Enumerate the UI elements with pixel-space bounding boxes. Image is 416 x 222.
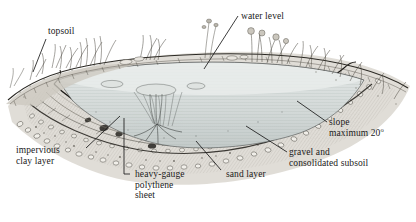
label-slope-maximum: slope maximum 20o [329,117,415,138]
label-clay-line1: impervious [16,145,104,156]
leader-topsoil [33,39,46,72]
label-polythene-line3: sheet [135,190,215,201]
label-impervious-clay-layer: impervious clay layer [16,145,104,166]
label-slope-line2: maximum 20o [329,128,415,139]
label-gravel-and-consolidated-subsoil: gravel and consolidated subsoil [289,147,413,168]
label-heavy-gauge-polythene-sheet: heavy-gauge polythene sheet [135,169,215,201]
label-slope-line1: slope [329,117,415,128]
label-sand-layer: sand layer [226,169,266,180]
label-clay-line2: clay layer [16,156,104,167]
label-sand-layer-text: sand layer [226,169,266,179]
label-topsoil: topsoil [48,26,75,37]
label-water-level-text: water level [241,11,284,21]
label-gravel-line1: gravel and [289,147,413,158]
diagram-canvas: topsoil water level slope maximum 20o gr… [0,0,416,222]
label-polythene-line1: heavy-gauge [135,169,215,180]
label-gravel-line2: consolidated subsoil [289,158,413,169]
degree-symbol: o [380,125,383,132]
label-topsoil-text: topsoil [48,26,75,36]
label-polythene-line2: polythene [135,180,215,191]
label-water-level: water level [241,11,284,22]
